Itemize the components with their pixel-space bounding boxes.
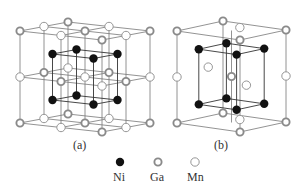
ga-atom-icon [16,27,23,34]
bond-line [237,104,265,110]
ga-atom-icon [98,36,105,43]
bond-line [240,122,286,132]
bond-line [199,43,227,49]
mn-atom-icon [40,114,48,122]
mn-atom-icon [282,72,290,80]
legend-ga-label: Ga [150,170,164,185]
mn-atom-icon [57,123,65,131]
ga-atom-icon [57,78,64,85]
bond-line [53,54,94,59]
mn-atom-icon [81,73,89,81]
ni-atom-icon [222,39,230,47]
bond-line [199,104,237,109]
ni-atom-icon [222,94,230,102]
mn-atom-icon [236,115,244,123]
ni-atom-icon [232,106,240,114]
mn-atom-icon [236,23,244,31]
panel-a-label: (a) [73,138,86,153]
ga-atom-icon [98,128,105,135]
bond-line [226,43,264,48]
bond-line [237,49,265,55]
mn-atom-icon [105,22,113,30]
ga-atom-icon [236,128,243,135]
ni-atom-icon [195,45,203,53]
ga-atom-icon [64,18,71,25]
mn-atom-icon [98,82,106,90]
ga-atom-icon [40,69,47,76]
ni-atom-icon [72,45,80,53]
crystal-diagram [0,0,291,186]
mn-atom-icon [64,64,72,72]
mn-atom-icon [122,31,130,39]
legend-ni-label: Ni [113,170,125,185]
ga-atom-icon [64,110,71,117]
ni-atom-icon [116,158,124,166]
bond-line [199,98,227,104]
panel-b-label: (b) [214,138,228,153]
ni-atom-icon [48,96,56,104]
ni-atom-icon [113,50,121,58]
atoms [16,17,290,166]
ga-atom-icon [282,118,289,125]
ga-atom-icon [173,119,180,126]
mn-atom-icon [191,158,199,166]
ga-atom-icon [219,17,226,24]
bond-line [177,113,223,123]
crystal-structure-figure: (a) (b) Ni Ga Mn [0,0,291,186]
ni-atom-icon [260,100,268,108]
ni-atom-icon [89,54,97,62]
ni-atom-icon [195,100,203,108]
legend-mn-label: Mn [187,170,204,185]
mn-atom-icon [105,114,113,122]
mn-atom-icon [40,22,48,30]
ga-atom-icon [219,109,226,116]
bond-line [199,49,237,54]
bond-line [53,100,94,105]
ni-atom-icon [89,100,97,108]
ga-atom-icon [236,36,243,43]
ni-atom-icon [72,91,80,99]
mn-atom-icon [242,81,250,89]
ga-atom-icon [16,119,23,126]
ga-atom-icon [154,158,161,165]
mn-atom-icon [146,73,154,81]
ni-atom-icon [113,96,121,104]
bond-line [240,30,286,40]
mn-atom-icon [173,73,181,81]
ga-atom-icon [81,119,88,126]
bond-line [177,31,240,40]
ni-atom-icon [260,44,268,52]
ni-atom-icon [48,50,56,58]
ga-atom-icon [146,27,153,34]
ga-atom-icon [105,69,112,76]
bond-line [177,123,240,132]
bond-line [177,21,223,31]
bond-line [77,96,118,101]
bond-line [77,50,118,55]
mn-atom-icon [16,73,24,81]
ga-atom-icon [122,78,129,85]
mn-atom-icon [57,31,65,39]
ga-atom-icon [228,73,235,80]
bond-line [226,98,264,103]
ga-atom-icon [282,26,289,33]
ni-atom-icon [232,50,240,58]
ga-atom-icon [81,27,88,34]
mn-atom-icon [122,123,130,131]
ga-atom-icon [173,27,180,34]
ga-atom-icon [146,119,153,126]
bond-line [223,113,286,122]
bond-line [223,21,286,30]
mn-atom-icon [204,63,212,71]
